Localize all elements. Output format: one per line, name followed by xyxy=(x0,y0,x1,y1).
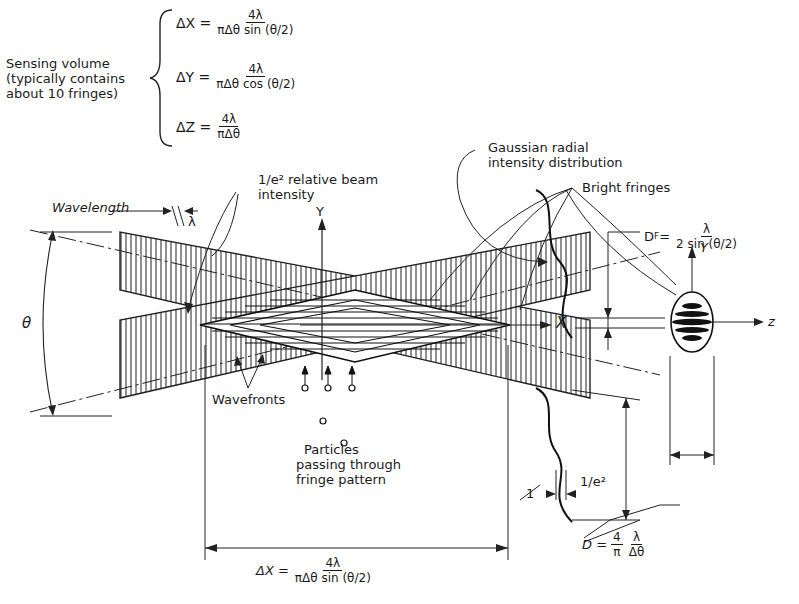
d-a-num: 4 xyxy=(611,530,623,545)
lambda-label: λ xyxy=(188,214,196,229)
d-b-den: Δθ xyxy=(627,545,647,559)
gaussian-label-line-2: intensity distribution xyxy=(488,155,623,170)
d-lhs: D = xyxy=(582,537,607,552)
particles-line-1: Particles xyxy=(296,442,401,457)
beam-diameter-formula: D = 4 π λ Δθ xyxy=(582,530,646,559)
equation-dx: ΔX = 4λ πΔθ sin (θ/2) xyxy=(176,8,295,37)
df-eq: = xyxy=(659,229,670,244)
df-num: λ xyxy=(701,222,712,237)
equation-dy-lhs: ΔY = xyxy=(176,69,210,85)
one-label: 1 xyxy=(526,486,534,501)
equation-dx-den: πΔθ sin (θ/2) xyxy=(215,23,295,37)
beam-intensity-line-1: 1/e² relative beam xyxy=(258,172,378,187)
y-axis-label: Y xyxy=(316,204,324,219)
equation-dy-den: πΔθ cos (θ/2) xyxy=(214,77,297,91)
bottom-dx-lhs: ΔX = xyxy=(256,563,289,578)
particles-line-2: passing through xyxy=(296,457,401,472)
x-axis-label: X xyxy=(556,316,566,331)
equation-dy: ΔY = 4λ πΔθ cos (θ/2) xyxy=(176,62,297,91)
wavelength-label: Wavelength xyxy=(52,200,129,215)
equation-dy-num: 4λ xyxy=(246,62,265,77)
gaussian-label-line-1: Gaussian radial xyxy=(488,140,623,155)
gaussian-label: Gaussian radial intensity distribution xyxy=(488,140,623,170)
particles-label: Particles passing through fringe pattern xyxy=(296,442,401,487)
z-axis-label: z xyxy=(768,314,775,329)
wavefronts-label: Wavefronts xyxy=(212,392,285,407)
equation-dz-num: 4λ xyxy=(219,112,238,127)
equation-dz: ΔZ = 4λ πΔθ xyxy=(176,112,242,141)
d-a-den: π xyxy=(611,545,622,559)
bottom-dx-num: 4λ xyxy=(323,556,342,571)
sensing-volume-line-1: Sensing volume xyxy=(6,56,125,71)
particles-line-3: fringe pattern xyxy=(296,472,401,487)
theta-label: θ xyxy=(22,316,31,331)
beam-intensity-line-2: intensity xyxy=(258,187,378,202)
sensing-volume-line-3: about 10 fringes) xyxy=(6,86,125,101)
beam-intensity-label: 1/e² relative beam intensity xyxy=(258,172,378,202)
equation-dx-lhs: ΔX = xyxy=(176,15,211,31)
sensing-volume-line-2: (typically contains xyxy=(6,71,125,86)
gaussian-profile-lower xyxy=(536,388,572,522)
bright-fringes-label: Bright fringes xyxy=(582,180,670,195)
fringe-spacing-formula: DF = λ 2 sin (θ/2) xyxy=(644,222,739,251)
d-b-num: λ xyxy=(631,530,642,545)
equation-dz-den: πΔθ xyxy=(215,127,242,141)
df-lhs: D xyxy=(644,229,654,244)
df-den: 2 sin (θ/2) xyxy=(674,237,739,251)
sensing-volume-label: Sensing volume (typically contains about… xyxy=(6,56,125,101)
bottom-dx-den: πΔθ sin (θ/2) xyxy=(293,571,373,585)
equation-dx-num: 4λ xyxy=(246,8,265,23)
equation-dz-lhs: ΔZ = xyxy=(176,119,211,135)
sensing-volume-brace xyxy=(150,10,172,146)
one-over-e2-label: 1/e² xyxy=(580,474,606,489)
bottom-dx-formula: ΔX = 4λ πΔθ sin (θ/2) xyxy=(256,556,373,585)
